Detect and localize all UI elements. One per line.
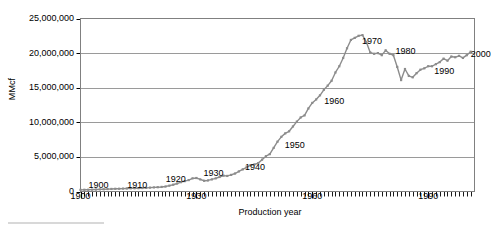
data-point-marker bbox=[230, 174, 232, 176]
data-point-marker bbox=[164, 185, 166, 187]
data-point-marker bbox=[265, 155, 267, 157]
data-point-marker bbox=[315, 98, 317, 100]
data-point-marker bbox=[188, 179, 190, 181]
data-point-marker bbox=[377, 52, 379, 54]
series-point-label: 1900 bbox=[89, 181, 109, 190]
data-point-marker bbox=[454, 56, 456, 58]
data-point-marker bbox=[307, 107, 309, 109]
data-point-marker bbox=[273, 147, 275, 149]
data-point-marker bbox=[296, 121, 298, 123]
data-point-marker bbox=[462, 57, 464, 59]
plot-frame bbox=[81, 19, 475, 192]
data-point-marker bbox=[261, 159, 263, 161]
data-point-marker bbox=[412, 76, 414, 78]
data-point-marker bbox=[199, 178, 201, 180]
series-point-label: 1950 bbox=[285, 141, 305, 150]
data-point-marker bbox=[288, 130, 290, 132]
series-point-label: 1940 bbox=[245, 163, 265, 172]
data-point-marker bbox=[466, 54, 468, 56]
data-point-marker bbox=[300, 116, 302, 118]
x-axis-minor-ticks bbox=[82, 192, 472, 197]
data-point-marker bbox=[110, 188, 112, 190]
data-point-marker bbox=[280, 136, 282, 138]
data-point-marker bbox=[269, 153, 271, 155]
series-point-label: 1920 bbox=[166, 175, 186, 184]
data-point-marker bbox=[435, 63, 437, 65]
data-point-marker bbox=[161, 186, 163, 188]
data-point-marker bbox=[211, 178, 213, 180]
data-point-marker bbox=[373, 53, 375, 55]
series-point-label: 1970 bbox=[362, 37, 382, 46]
data-point-marker bbox=[415, 72, 417, 74]
data-point-marker bbox=[388, 53, 390, 55]
data-point-marker bbox=[446, 60, 448, 62]
series-point-label: 1980 bbox=[396, 47, 416, 56]
data-point-marker bbox=[323, 89, 325, 91]
data-point-marker bbox=[207, 179, 209, 181]
data-point-marker bbox=[404, 68, 406, 70]
data-point-marker bbox=[79, 189, 81, 191]
data-point-marker bbox=[423, 67, 425, 69]
data-point-marker bbox=[83, 189, 85, 191]
data-point-marker bbox=[195, 177, 197, 179]
data-point-marker bbox=[346, 47, 348, 49]
series-point-label: 2000 bbox=[471, 50, 491, 59]
data-point-marker bbox=[292, 125, 294, 127]
data-point-marker bbox=[392, 54, 394, 56]
data-point-marker bbox=[369, 51, 371, 53]
data-point-marker bbox=[427, 65, 429, 67]
data-point-marker bbox=[311, 102, 313, 104]
data-point-marker bbox=[408, 75, 410, 77]
data-point-marker bbox=[431, 65, 433, 67]
series-point-label: 1960 bbox=[324, 97, 344, 106]
data-point-marker bbox=[342, 57, 344, 59]
data-point-marker bbox=[191, 177, 193, 179]
data-point-marker bbox=[149, 187, 151, 189]
data-point-marker bbox=[450, 55, 452, 57]
data-point-marker bbox=[203, 180, 205, 182]
data-point-marker bbox=[396, 66, 398, 68]
production-series-line bbox=[81, 35, 471, 190]
data-point-marker bbox=[114, 188, 116, 190]
series-point-label: 1930 bbox=[203, 169, 223, 178]
data-point-marker bbox=[153, 186, 155, 188]
data-point-marker bbox=[330, 80, 332, 82]
data-point-marker bbox=[327, 85, 329, 87]
data-point-marker bbox=[319, 94, 321, 96]
data-point-marker bbox=[122, 187, 124, 189]
data-point-marker bbox=[385, 49, 387, 51]
data-point-marker bbox=[276, 141, 278, 143]
data-point-marker bbox=[226, 175, 228, 177]
data-point-marker bbox=[381, 54, 383, 56]
scan-artifact bbox=[8, 222, 104, 224]
data-point-marker bbox=[118, 188, 120, 190]
data-point-marker bbox=[238, 170, 240, 172]
data-point-marker bbox=[443, 58, 445, 60]
series-point-label: 1910 bbox=[127, 181, 147, 190]
data-point-marker bbox=[419, 69, 421, 71]
data-point-marker bbox=[358, 35, 360, 37]
data-point-marker bbox=[168, 185, 170, 187]
data-point-marker bbox=[458, 55, 460, 57]
axis-major-ticks bbox=[77, 20, 429, 199]
data-point-marker bbox=[354, 37, 356, 39]
data-point-marker bbox=[350, 39, 352, 41]
data-point-marker bbox=[157, 186, 159, 188]
data-point-marker bbox=[338, 65, 340, 67]
data-point-marker bbox=[284, 132, 286, 134]
data-point-marker bbox=[334, 71, 336, 73]
data-point-marker bbox=[242, 168, 244, 170]
data-point-marker bbox=[303, 114, 305, 116]
production-series-markers bbox=[79, 34, 471, 191]
series-point-label: 1990 bbox=[434, 67, 454, 76]
data-point-marker bbox=[400, 79, 402, 81]
data-point-marker bbox=[234, 172, 236, 174]
data-point-marker bbox=[439, 61, 441, 63]
